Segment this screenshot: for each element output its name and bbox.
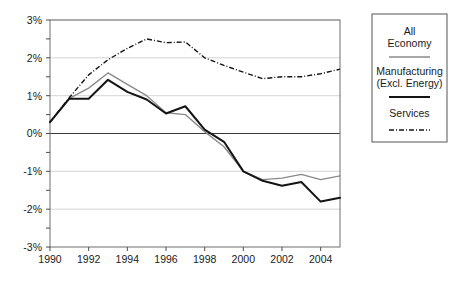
- x-axis-tick-label: 2004: [309, 253, 333, 265]
- y-axis-tick-label: -2%: [23, 203, 42, 215]
- x-axis-tick-label: 1994: [116, 253, 140, 265]
- legend: All Economy Manufacturing (Excl. Energy)…: [372, 14, 447, 142]
- x-axis-tick-label: 2002: [270, 253, 294, 265]
- x-axis-tick-label: 1996: [154, 253, 178, 265]
- x-axis-tick-label: 1998: [193, 253, 217, 265]
- legend-item-all-economy-label-line2: Economy: [388, 37, 433, 49]
- legend-item-services-label-line1: Services: [389, 107, 429, 119]
- y-axis-tick-label: 1%: [27, 90, 42, 102]
- y-axis-tick-label: -3%: [23, 241, 42, 253]
- y-axis-tick-label: 0%: [27, 127, 42, 139]
- legend-item-manufacturing-label-line2: (Excl. Energy): [377, 77, 443, 89]
- legend-item-manufacturing-label-line1: Manufacturing: [376, 65, 443, 77]
- line-chart-figure: 3% 2% 1% 0% -1% -2% -3% 1990 1992 1994 1…: [0, 0, 451, 286]
- x-axis-tick-label: 1992: [77, 253, 101, 265]
- x-axis-tick-label: 1990: [38, 253, 62, 265]
- y-axis-tick-label: 3%: [27, 14, 42, 26]
- x-axis-tick-label: 2000: [232, 253, 256, 265]
- y-axis-tick-label: 2%: [27, 52, 42, 64]
- legend-item-all-economy-label-line1: All: [404, 25, 416, 37]
- y-axis-tick-label: -1%: [23, 165, 42, 177]
